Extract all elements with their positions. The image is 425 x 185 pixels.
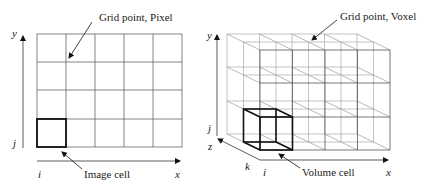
diagram-canvas: Grid point, Pixel Image cell y x j i: [0, 0, 425, 185]
volume-cell-highlight: [244, 109, 293, 150]
pixel-callout-arrow-icon: [69, 22, 92, 58]
right-y-axis-label: y: [206, 29, 212, 41]
k-index-label: k: [245, 160, 251, 172]
left-i-index-label: i: [38, 168, 41, 180]
voxel-callout-label: Grid point, Voxel: [340, 10, 416, 22]
voxel-grid-panel: Grid point, Voxel Volume cell y x z j i …: [206, 10, 416, 178]
volume-cell-callout-arrow-icon: [279, 154, 300, 168]
left-y-axis-label: y: [11, 27, 17, 39]
image-cell-label: Image cell: [84, 168, 130, 180]
image-cell-callout-arrow-icon: [62, 152, 82, 169]
volume-cell-label: Volume cell: [302, 166, 355, 178]
voxel-grid-front: [260, 50, 390, 150]
left-x-axis-label: x: [174, 168, 180, 180]
pixel-grid: [37, 34, 182, 147]
pixel-grid-panel: Grid point, Pixel Image cell y x j i: [11, 11, 182, 180]
z-axis-label: z: [207, 140, 213, 152]
right-j-index-label: j: [206, 122, 211, 134]
right-i-index-label: i: [263, 166, 266, 178]
left-j-index-label: j: [11, 137, 16, 149]
pixel-callout-label: Grid point, Pixel: [99, 11, 173, 23]
image-cell-highlight: [37, 119, 66, 147]
right-x-axis-label: x: [385, 166, 391, 178]
